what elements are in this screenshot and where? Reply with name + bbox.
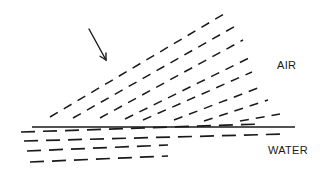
water-wavefront-line bbox=[30, 156, 168, 162]
air-wavefront-line bbox=[125, 58, 249, 119]
water-wavefronts bbox=[21, 124, 285, 162]
water-wavefront-line bbox=[24, 134, 285, 141]
arrow-icon bbox=[89, 29, 106, 60]
water-wavefront-line bbox=[27, 145, 168, 151]
air-wavefront-line bbox=[174, 88, 258, 120]
air-wavefront-line bbox=[100, 40, 243, 118]
water-label: WATER bbox=[268, 144, 308, 156]
air-wavefronts bbox=[50, 14, 280, 121]
air-label: AIR bbox=[277, 59, 296, 71]
water-wavefront-line bbox=[21, 124, 262, 132]
air-wavefront-line bbox=[50, 14, 224, 117]
air-wavefront-line bbox=[240, 114, 280, 121]
